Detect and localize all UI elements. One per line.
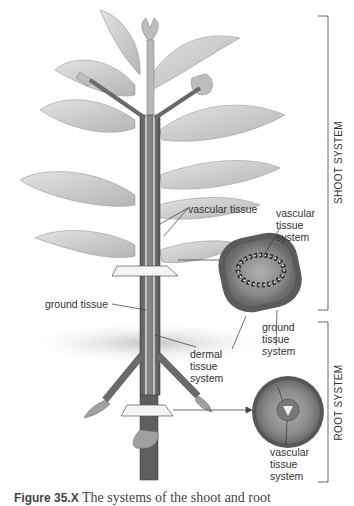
- label-vascular-tissue-system-shoot: vascular tissue system: [276, 207, 315, 243]
- label-vascular-tissue-system-root: vascular tissue system: [270, 446, 309, 482]
- label-vascular-tissue: vascular tissue: [188, 203, 257, 215]
- figure-caption: Figure 35.X The systems of the shoot and…: [14, 490, 271, 506]
- label-dermal-tissue-system: dermal tissue system: [190, 348, 223, 384]
- root-cross-section: [252, 376, 324, 448]
- stem-section-plane: [112, 266, 178, 276]
- label-root-system: ROOT SYSTEM: [333, 363, 344, 443]
- figure-number: Figure 35.X: [14, 491, 79, 505]
- figure-caption-text: The systems of the shoot and root: [82, 490, 271, 505]
- label-ground-tissue: ground tissue: [45, 298, 108, 310]
- label-shoot-system: SHOOT SYSTEM: [333, 118, 344, 208]
- root-section-plane: [121, 405, 173, 416]
- label-ground-tissue-system: ground tissue system: [262, 321, 295, 357]
